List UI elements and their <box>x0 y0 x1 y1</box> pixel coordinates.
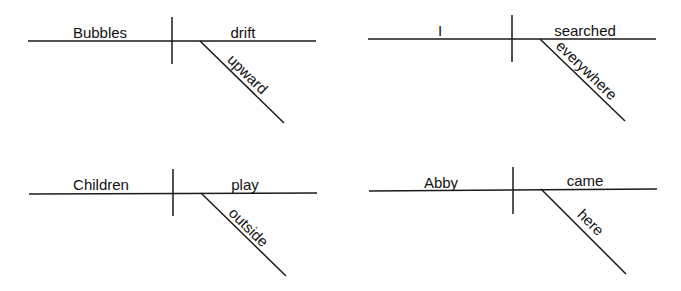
subject-word: Bubbles <box>73 24 127 41</box>
subject-word: I <box>438 22 442 39</box>
modifier-word: everywhere <box>553 37 621 103</box>
diagram-2: I searched everywhere <box>368 15 656 121</box>
verb-word: came <box>567 172 604 189</box>
diagram-3: Children play outside <box>29 169 317 276</box>
modifier-word: here <box>574 205 607 238</box>
verb-word: play <box>231 176 259 193</box>
verb-word: drift <box>230 24 256 41</box>
modifier-slant-line <box>200 41 284 123</box>
modifier-word: upward <box>224 51 271 98</box>
diagram-4: Abby came here <box>369 167 657 274</box>
subject-word: Abby <box>424 174 459 191</box>
diagram-1: Bubbles drift upward <box>28 17 316 123</box>
verb-word: searched <box>554 22 616 39</box>
subject-word: Children <box>73 176 129 193</box>
modifier-word: outside <box>226 204 272 250</box>
modifier-slant-line <box>540 39 625 121</box>
modifier-slant-line <box>541 189 626 274</box>
sentence-diagrams: Bubbles drift upward I searched everywhe… <box>0 0 681 291</box>
modifier-slant-line <box>201 193 286 276</box>
